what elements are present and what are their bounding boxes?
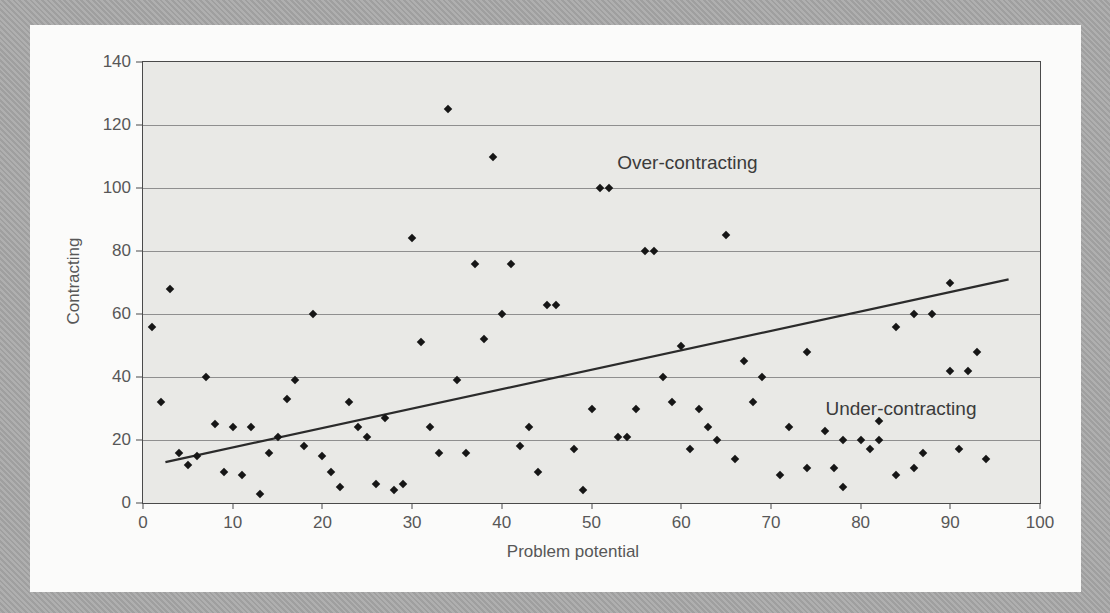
x-tick <box>322 503 323 509</box>
x-tick-label: 0 <box>138 513 147 533</box>
y-tick <box>136 188 143 189</box>
annotation-over-contracting: Over-contracting <box>617 152 757 174</box>
y-tick <box>136 62 143 63</box>
figure-card: Contracting 0204060801001201400102030405… <box>30 25 1081 592</box>
y-tick-label: 120 <box>81 115 131 135</box>
x-tick <box>1040 503 1041 509</box>
x-tick <box>591 503 592 509</box>
x-tick-label: 70 <box>761 513 780 533</box>
x-tick <box>501 503 502 509</box>
x-tick-label: 30 <box>403 513 422 533</box>
y-tick-label: 140 <box>81 52 131 72</box>
x-tick-label: 60 <box>672 513 691 533</box>
x-tick <box>950 503 951 509</box>
y-tick-label: 20 <box>81 430 131 450</box>
x-tick <box>412 503 413 509</box>
x-tick <box>860 503 861 509</box>
x-tick-label: 40 <box>492 513 511 533</box>
plot-area: 0204060801001201400102030405060708090100… <box>142 61 1041 504</box>
x-tick-label: 100 <box>1026 513 1054 533</box>
x-tick-label: 80 <box>851 513 870 533</box>
y-tick-label: 0 <box>81 493 131 513</box>
x-tick-label: 10 <box>223 513 242 533</box>
y-tick <box>136 377 143 378</box>
y-tick <box>136 440 143 441</box>
y-tick-label: 80 <box>81 241 131 261</box>
y-tick <box>136 314 143 315</box>
y-tick <box>136 125 143 126</box>
y-tick-label: 40 <box>81 367 131 387</box>
annotation-under-contracting: Under-contracting <box>825 398 976 420</box>
x-tick-label: 90 <box>941 513 960 533</box>
y-tick-label: 60 <box>81 304 131 324</box>
x-tick <box>143 503 144 509</box>
x-tick-label: 20 <box>313 513 332 533</box>
x-tick <box>770 503 771 509</box>
x-tick <box>681 503 682 509</box>
y-tick <box>136 251 143 252</box>
x-axis-title: Problem potential <box>423 542 723 562</box>
x-tick-label: 50 <box>582 513 601 533</box>
y-tick-label: 100 <box>81 178 131 198</box>
x-tick <box>232 503 233 509</box>
